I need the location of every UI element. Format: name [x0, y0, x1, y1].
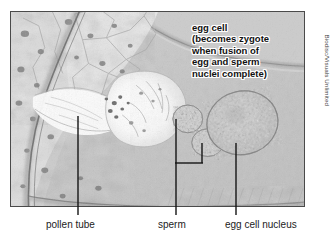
photo-credit: Biodisc/Visuals Unlimited	[324, 34, 331, 106]
micrograph-image	[10, 11, 305, 207]
label-pollen-tube: pollen tube	[46, 219, 95, 231]
label-egg-cell-nucleus: egg cell nucleus	[225, 219, 297, 231]
label-sperm: sperm	[158, 219, 186, 231]
micrograph-rendering	[11, 12, 304, 206]
